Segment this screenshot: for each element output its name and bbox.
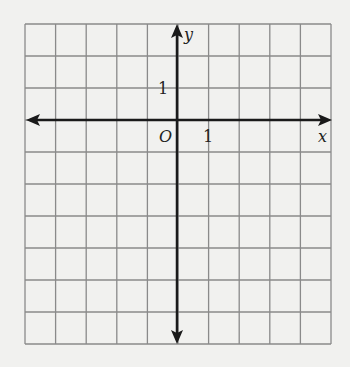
origin-label: O	[159, 127, 172, 146]
x-tick-label: 1	[203, 127, 213, 146]
coordinate-plane: y x O 1 1	[0, 0, 350, 367]
x-axis-label: x	[318, 127, 327, 146]
y-axis-label: y	[183, 25, 194, 44]
y-tick-label: 1	[158, 79, 168, 98]
x-axis	[26, 114, 332, 126]
